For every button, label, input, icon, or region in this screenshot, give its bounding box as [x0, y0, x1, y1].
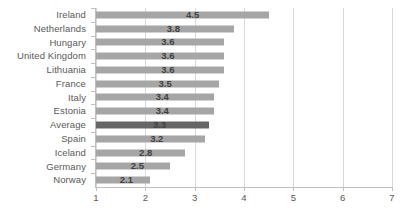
- bar-row: 3.6: [96, 63, 392, 77]
- y-axis-tick: [91, 173, 95, 187]
- x-axis-tick: [195, 187, 196, 191]
- y-axis-tick: [91, 36, 95, 50]
- plot-area: 4.53.83.63.63.63.53.43.43.33.22.82.52.1: [96, 8, 392, 187]
- category-label: Germany: [0, 159, 90, 173]
- bar-value-label: 3.4: [156, 93, 169, 103]
- bar-row: 3.2: [96, 132, 392, 146]
- y-axis-ticks: [91, 8, 95, 187]
- category-label: Lithuania: [0, 63, 90, 77]
- category-axis-labels: IrelandNetherlandsHungaryUnited KingdomL…: [0, 8, 90, 187]
- y-axis-tick: [91, 146, 95, 160]
- bar-value-label: 2.8: [139, 148, 152, 158]
- x-axis-label: 4: [241, 193, 246, 203]
- bar-value-label: 3.8: [167, 24, 180, 34]
- category-label: Average: [0, 118, 90, 132]
- category-label: Italy: [0, 91, 90, 105]
- bar-row: 3.3: [96, 118, 392, 132]
- x-axis-labels: 1234567: [96, 193, 392, 207]
- bar-value-label: 3.6: [161, 51, 174, 61]
- bar-value-label: 2.5: [131, 162, 144, 172]
- y-axis-tick: [91, 22, 95, 36]
- bar-value-label: 3.6: [161, 65, 174, 75]
- bar-value-label: 3.2: [150, 134, 163, 144]
- bar-row: 3.4: [96, 104, 392, 118]
- x-axis-tick: [293, 187, 294, 191]
- bar-value-label: 3.3: [153, 120, 166, 130]
- bar-value-label: 4.5: [186, 10, 199, 20]
- y-axis-tick: [91, 49, 95, 63]
- category-label: United Kingdom: [0, 49, 90, 63]
- gridline: [392, 8, 393, 187]
- y-axis-tick: [91, 8, 95, 22]
- bar-row: 2.8: [96, 146, 392, 160]
- x-axis-label: 6: [340, 193, 345, 203]
- y-axis-tick: [91, 104, 95, 118]
- bar: [96, 11, 269, 18]
- category-label: Netherlands: [0, 22, 90, 36]
- category-label: France: [0, 77, 90, 91]
- bar-row: 3.4: [96, 91, 392, 105]
- bar: [96, 25, 234, 32]
- bar-row: 3.6: [96, 49, 392, 63]
- x-axis-tick: [244, 187, 245, 191]
- bar-series: 4.53.83.63.63.63.53.43.43.33.22.82.52.1: [96, 8, 392, 187]
- y-axis-tick: [91, 63, 95, 77]
- y-axis-tick: [91, 91, 95, 105]
- bar-row: 4.5: [96, 8, 392, 22]
- category-label: Hungary: [0, 36, 90, 50]
- category-label: Spain: [0, 132, 90, 146]
- bar: [96, 39, 224, 46]
- bar-row: 3.8: [96, 22, 392, 36]
- bar-row: 3.6: [96, 36, 392, 50]
- x-axis-label: 2: [143, 193, 148, 203]
- bar: [96, 53, 224, 60]
- bar-row: 3.5: [96, 77, 392, 91]
- y-axis-tick: [91, 77, 95, 91]
- x-axis-label: 7: [389, 193, 394, 203]
- y-axis-tick: [91, 118, 95, 132]
- y-axis-tick: [91, 159, 95, 173]
- category-label: Iceland: [0, 146, 90, 160]
- x-axis-label: 1: [93, 193, 98, 203]
- bar-value-label: 3.4: [156, 106, 169, 116]
- category-label: Norway: [0, 173, 90, 187]
- category-label: Estonia: [0, 104, 90, 118]
- bar-value-label: 3.5: [158, 79, 171, 89]
- x-axis-tick: [392, 187, 393, 191]
- bar-row: 2.5: [96, 159, 392, 173]
- bar: [96, 66, 224, 73]
- x-axis-label: 3: [192, 193, 197, 203]
- x-axis-tick: [96, 187, 97, 191]
- bar-value-label: 2.1: [120, 175, 133, 185]
- category-label: Ireland: [0, 8, 90, 22]
- x-axis-tick: [145, 187, 146, 191]
- bar-row: 2.1: [96, 173, 392, 187]
- y-axis-tick: [91, 132, 95, 146]
- x-axis-label: 5: [291, 193, 296, 203]
- bar-value-label: 3.6: [161, 38, 174, 48]
- x-axis-tick: [343, 187, 344, 191]
- bar-chart: IrelandNetherlandsHungaryUnited KingdomL…: [0, 0, 419, 218]
